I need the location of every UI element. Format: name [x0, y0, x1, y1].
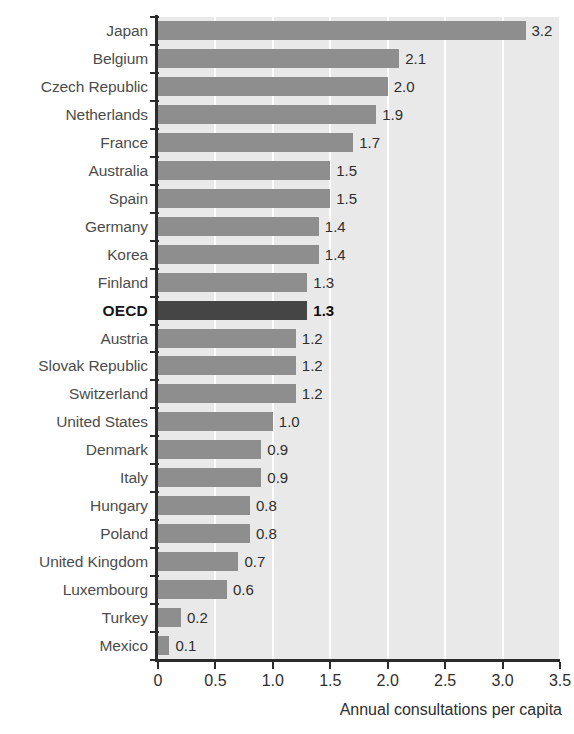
bar-australia	[158, 161, 330, 180]
bar-hungary	[158, 496, 250, 515]
bar-row: Spain1.5	[0, 185, 574, 213]
x-tick-label-3.5: 3.5	[549, 671, 571, 691]
value-label-belgium: 2.1	[405, 45, 426, 73]
x-tick-2.0	[387, 662, 389, 669]
bar-row: Finland1.3	[0, 269, 574, 297]
category-label-oecd: OECD	[0, 297, 148, 325]
value-label-australia: 1.5	[336, 157, 357, 185]
x-tick-label-0.5: 0.5	[204, 671, 226, 691]
bar-united-states	[158, 412, 273, 431]
value-label-czech-republic: 2.0	[394, 73, 415, 101]
value-label-slovak-republic: 1.2	[302, 352, 323, 380]
bar-belgium	[158, 49, 399, 68]
category-label-united-kingdom: United Kingdom	[0, 548, 148, 576]
bar-czech-republic	[158, 77, 388, 96]
x-tick-label-2.0: 2.0	[377, 671, 399, 691]
bar-netherlands	[158, 105, 376, 124]
bar-row: Belgium2.1	[0, 45, 574, 73]
x-tick-1.5	[329, 662, 331, 669]
bar-row: Switzerland1.2	[0, 380, 574, 408]
bar-row: Mexico0.1	[0, 632, 574, 660]
bar-luxembourg	[158, 580, 227, 599]
bar-turkey	[158, 608, 181, 627]
value-label-hungary: 0.8	[256, 492, 277, 520]
bar-row: Austria1.2	[0, 325, 574, 353]
value-label-austria: 1.2	[302, 325, 323, 353]
value-label-poland: 0.8	[256, 520, 277, 548]
bar-row: France1.7	[0, 129, 574, 157]
x-tick-0	[157, 662, 159, 669]
category-label-switzerland: Switzerland	[0, 380, 148, 408]
x-tick-label-3.0: 3.0	[491, 671, 513, 691]
x-tick-3.5	[559, 662, 561, 669]
value-label-mexico: 0.1	[175, 632, 196, 660]
bar-denmark	[158, 440, 261, 459]
value-label-france: 1.7	[359, 129, 380, 157]
category-label-mexico: Mexico	[0, 632, 148, 660]
bar-row: United Kingdom0.7	[0, 548, 574, 576]
value-label-germany: 1.4	[325, 213, 346, 241]
value-label-united-kingdom: 0.7	[244, 548, 265, 576]
value-label-switzerland: 1.2	[302, 380, 323, 408]
bar-row: Poland0.8	[0, 520, 574, 548]
bar-row: United States1.0	[0, 408, 574, 436]
bar-row: Luxembourg0.6	[0, 576, 574, 604]
value-label-luxembourg: 0.6	[233, 576, 254, 604]
bar-austria	[158, 329, 296, 348]
value-label-italy: 0.9	[267, 464, 288, 492]
bar-row: Denmark0.9	[0, 436, 574, 464]
bar-finland	[158, 273, 307, 292]
x-tick-1.0	[272, 662, 274, 669]
value-label-united-states: 1.0	[279, 408, 300, 436]
bar-row: Korea1.4	[0, 241, 574, 269]
x-tick-label-0: 0	[154, 671, 163, 691]
x-tick-3.0	[502, 662, 504, 669]
bar-italy	[158, 468, 261, 487]
bar-row: OECD1.3	[0, 297, 574, 325]
bar-row: Italy0.9	[0, 464, 574, 492]
category-label-austria: Austria	[0, 325, 148, 353]
category-label-denmark: Denmark	[0, 436, 148, 464]
category-label-finland: Finland	[0, 269, 148, 297]
bar-row: Hungary0.8	[0, 492, 574, 520]
bar-row: Germany1.4	[0, 213, 574, 241]
bar-slovak-republic	[158, 356, 296, 375]
x-tick-2.5	[444, 662, 446, 669]
category-label-united-states: United States	[0, 408, 148, 436]
x-tick-label-1.0: 1.0	[262, 671, 284, 691]
bar-spain	[158, 189, 330, 208]
bar-mexico	[158, 636, 169, 655]
category-label-hungary: Hungary	[0, 492, 148, 520]
category-label-belgium: Belgium	[0, 45, 148, 73]
value-label-netherlands: 1.9	[382, 101, 403, 129]
bar-row: Japan3.2	[0, 17, 574, 45]
category-label-australia: Australia	[0, 157, 148, 185]
value-label-spain: 1.5	[336, 185, 357, 213]
category-label-czech-republic: Czech Republic	[0, 73, 148, 101]
bar-switzerland	[158, 384, 296, 403]
x-axis-title: Annual consultations per capita	[340, 699, 562, 721]
x-tick-label-2.5: 2.5	[434, 671, 456, 691]
bar-row: Slovak Republic1.2	[0, 352, 574, 380]
bar-row: Turkey0.2	[0, 604, 574, 632]
x-tick-0.5	[214, 662, 216, 669]
value-label-oecd: 1.3	[313, 297, 334, 325]
category-label-netherlands: Netherlands	[0, 101, 148, 129]
bar-poland	[158, 524, 250, 543]
category-label-france: France	[0, 129, 148, 157]
bar-united-kingdom	[158, 552, 238, 571]
value-label-finland: 1.3	[313, 269, 334, 297]
bar-row: Netherlands1.9	[0, 101, 574, 129]
bar-row: Czech Republic2.0	[0, 73, 574, 101]
value-label-japan: 3.2	[532, 17, 553, 45]
category-label-korea: Korea	[0, 241, 148, 269]
category-label-poland: Poland	[0, 520, 148, 548]
bar-chart-figure: Japan3.2Belgium2.1Czech Republic2.0Nethe…	[0, 0, 574, 734]
category-label-luxembourg: Luxembourg	[0, 576, 148, 604]
bar-france	[158, 133, 353, 152]
bar-germany	[158, 217, 319, 236]
cropped-title-fragment	[0, 0, 574, 10]
category-label-italy: Italy	[0, 464, 148, 492]
bar-japan	[158, 21, 526, 40]
category-label-germany: Germany	[0, 213, 148, 241]
